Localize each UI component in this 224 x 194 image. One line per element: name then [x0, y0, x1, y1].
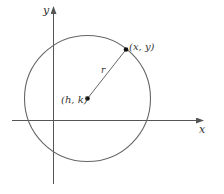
circle-diagram: y x (x, y) (h, k) r	[0, 0, 224, 194]
radius-label: r	[101, 65, 106, 75]
radius-line	[88, 50, 127, 99]
point-label: (x, y)	[129, 41, 155, 52]
y-axis-label: y	[42, 4, 50, 17]
x-axis-label: x	[199, 123, 206, 136]
circle-point	[124, 47, 129, 52]
center-label: (h, k)	[61, 94, 88, 105]
